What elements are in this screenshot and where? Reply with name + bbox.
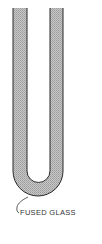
fused-glass-label: FUSED GLASS <box>20 208 76 217</box>
inner-outline <box>27 8 50 182</box>
glass-wall <box>13 8 63 196</box>
